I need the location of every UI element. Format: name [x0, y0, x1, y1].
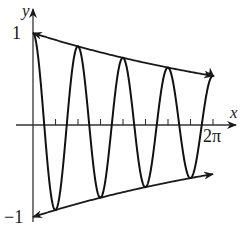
upper-envelope: [33, 33, 213, 76]
y-tick-label-neg1: −1: [4, 208, 23, 225]
x-axis-label: x: [230, 104, 238, 121]
damped-cosine-chart: [0, 0, 246, 225]
y-tick-label-1: 1: [12, 24, 21, 42]
y-axis-label: y: [22, 2, 30, 19]
x-tick-label-2pi: 2π: [203, 127, 221, 145]
